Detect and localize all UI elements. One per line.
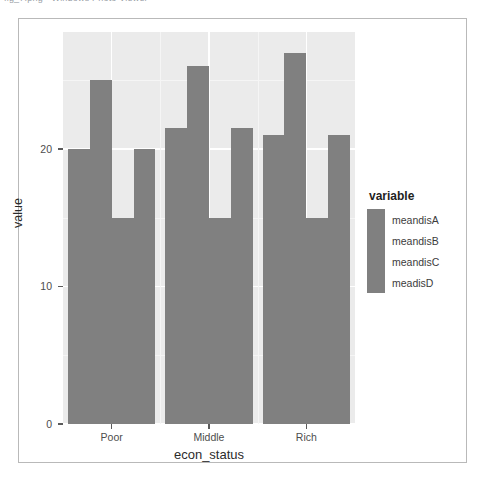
- bar-rich-meadisD: [328, 135, 350, 424]
- legend-swatch-icon: [367, 272, 385, 293]
- bar-middle-meandisC: [209, 218, 231, 424]
- gridline-minor-vertical: [160, 32, 161, 424]
- document-frame: 01020 value PoorMiddleRich econ_status v…: [18, 18, 467, 463]
- y-tick-label: 10: [40, 280, 52, 292]
- legend-label: meandisB: [392, 235, 439, 247]
- clipped-window-title-strip: fig_7.png - Windows Photo Viewer: [0, 0, 485, 12]
- x-tick-mark: [111, 424, 112, 429]
- x-axis-tick-marks: [63, 424, 355, 430]
- legend-item-meandisA: meandisA: [367, 209, 463, 230]
- legend-swatch-icon: [367, 230, 385, 251]
- chart-plot-panel: [63, 32, 355, 424]
- bar-middle-meandisB: [187, 66, 209, 424]
- y-axis-tick-marks: [57, 32, 63, 424]
- bar-rich-meandisC: [306, 218, 328, 424]
- legend-label: meandisA: [392, 214, 439, 226]
- bar-chart: 01020 value PoorMiddleRich econ_status v…: [19, 19, 468, 464]
- x-tick-mark: [306, 424, 307, 429]
- bar-rich-meandisA: [263, 135, 285, 424]
- y-axis-title: value: [11, 198, 25, 228]
- bar-poor-meandisB: [90, 80, 112, 424]
- x-tick-label-middle: Middle: [194, 431, 225, 443]
- legend-item-meandisC: meandisC: [367, 251, 463, 272]
- gridline-minor-vertical: [258, 32, 259, 424]
- y-tick-label: 0: [46, 418, 52, 430]
- legend-items: meandisAmeandisBmeandisCmeadisD: [367, 209, 463, 293]
- legend-label: meandisC: [392, 256, 439, 268]
- legend-item-meadisD: meadisD: [367, 272, 463, 293]
- y-axis-tick-labels: 01020: [27, 32, 52, 424]
- y-tick-mark: [58, 286, 63, 287]
- x-tick-label-poor: Poor: [101, 431, 123, 443]
- clipped-title-text: fig_7.png - Windows Photo Viewer: [4, 0, 148, 3]
- bar-poor-meandisC: [112, 218, 134, 424]
- bar-middle-meadisD: [231, 128, 253, 424]
- legend-item-meandisB: meandisB: [367, 230, 463, 251]
- bar-rich-meandisB: [284, 53, 306, 424]
- x-tick-mark: [208, 424, 209, 429]
- bar-poor-meandisA: [68, 149, 90, 424]
- legend-label: meadisD: [392, 277, 433, 289]
- chart-legend: variable meandisAmeandisBmeandisCmeadisD: [367, 189, 463, 293]
- y-tick-label: 20: [40, 143, 52, 155]
- y-tick-mark: [58, 148, 63, 149]
- bar-poor-meadisD: [134, 149, 156, 424]
- x-tick-label-rich: Rich: [296, 431, 317, 443]
- bar-middle-meandisA: [165, 128, 187, 424]
- x-axis-title: econ_status: [63, 447, 355, 462]
- x-axis-tick-labels: PoorMiddleRich: [63, 431, 355, 447]
- legend-swatch-icon: [367, 209, 385, 230]
- legend-swatch-icon: [367, 251, 385, 272]
- legend-title: variable: [367, 189, 463, 203]
